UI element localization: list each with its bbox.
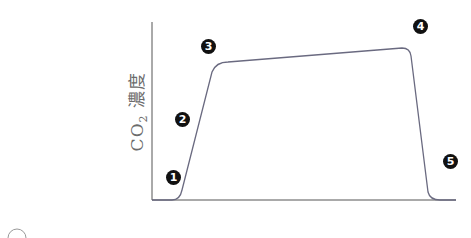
co2-concentration-chart	[0, 0, 471, 238]
annotation-marker-3: 3	[201, 39, 216, 54]
annotation-marker-1: 1	[166, 170, 181, 185]
ylabel-suffix: 濃度	[127, 72, 147, 114]
annotation-marker-4: 4	[413, 19, 428, 34]
annotation-marker-5: 5	[443, 154, 458, 169]
co2-curve	[152, 48, 456, 200]
ylabel-subscript: 2	[138, 115, 151, 123]
ylabel-main: CO	[127, 123, 147, 152]
annotation-marker-2: 2	[175, 112, 190, 127]
partial-circle-decoration	[8, 229, 26, 238]
y-axis-label: CO2 濃度	[124, 62, 150, 162]
